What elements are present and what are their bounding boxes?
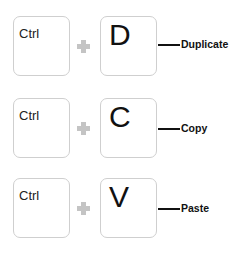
ctrl-key-label: Ctrl [19,188,39,203]
ctrl-key: Ctrl [13,16,70,76]
d-key: D [100,16,157,76]
ctrl-key-label: Ctrl [19,26,39,41]
ctrl-key-label: Ctrl [19,108,39,123]
plus-icon [77,122,90,135]
plus-icon [77,202,90,215]
action-label-duplicate: Duplicate [181,38,228,50]
shortcut-copy: Ctrl C Copy [0,98,242,160]
v-key-label: V [109,180,129,214]
action-label-paste: Paste [181,202,209,214]
c-key: C [100,98,157,158]
c-key-label: C [109,100,131,134]
connector-line [158,208,180,210]
ctrl-key: Ctrl [13,98,70,158]
plus-icon [77,40,90,53]
shortcut-paste: Ctrl V Paste [0,178,242,240]
connector-line [158,44,180,46]
connector-line [158,128,180,130]
ctrl-key: Ctrl [13,178,70,238]
action-label-copy: Copy [181,122,207,134]
d-key-label: D [109,18,131,52]
shortcut-duplicate: Ctrl D Duplicate [0,16,242,78]
v-key: V [100,178,157,238]
